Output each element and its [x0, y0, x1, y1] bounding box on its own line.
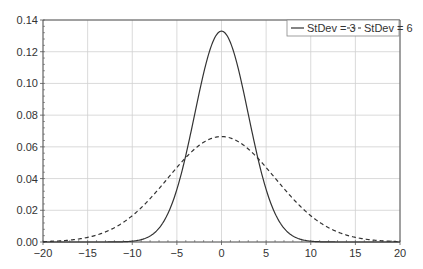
y-tick-label: 0.14: [17, 14, 38, 26]
y-tick-label: 0.10: [17, 77, 38, 89]
x-tick-label: 20: [394, 247, 406, 259]
legend-label-stdev6: StDev = 6: [364, 22, 413, 34]
x-tick-label: 15: [349, 247, 361, 259]
y-tick-label: 0.12: [17, 46, 38, 58]
x-tick-label: −10: [123, 247, 142, 259]
x-tick-label: 10: [305, 247, 317, 259]
x-tick-label: −5: [171, 247, 184, 259]
x-tick-label: 5: [263, 247, 269, 259]
normal-distribution-chart: 0.000.020.040.060.080.100.120.14 −20−15−…: [0, 0, 423, 269]
grid-lines: [43, 20, 400, 242]
chart-canvas: 0.000.020.040.060.080.100.120.14 −20−15−…: [0, 0, 423, 269]
x-tick-label: 0: [218, 247, 224, 259]
y-tick-label: 0.02: [17, 204, 38, 216]
legend: StDev = 3 StDev = 6: [287, 20, 413, 36]
x-axis-ticks: −20−15−10−505101520: [34, 240, 406, 259]
y-tick-label: 0.04: [17, 173, 38, 185]
y-tick-label: 0.08: [17, 109, 38, 121]
x-tick-label: −15: [78, 247, 97, 259]
y-tick-label: 0.06: [17, 141, 38, 153]
y-axis-ticks: 0.000.020.040.060.080.100.120.14: [17, 14, 45, 248]
x-tick-label: −20: [34, 247, 53, 259]
